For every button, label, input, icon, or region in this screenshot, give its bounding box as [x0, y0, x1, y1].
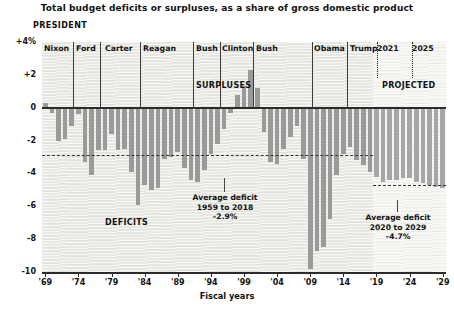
- bar-1975: [83, 108, 88, 162]
- bar-2020: [381, 108, 386, 182]
- x-tick-24: '24: [398, 278, 422, 287]
- bar-2001: [255, 88, 260, 108]
- bar-2003: [268, 108, 273, 162]
- bar-1996: [222, 108, 227, 129]
- chart-root: Total budget deficits or surpluses, as a…: [0, 0, 454, 310]
- president-name-2021-9: 2021: [377, 44, 399, 53]
- president-divider-ford: [73, 42, 74, 109]
- bar-2009: [308, 108, 313, 269]
- bar-2008: [301, 108, 306, 159]
- bar-2024: [407, 108, 412, 179]
- president-divider-carter: [100, 42, 101, 109]
- bar-1971: [56, 108, 61, 141]
- y-tick-2: 0: [2, 103, 36, 112]
- president-divider-clinton: [220, 42, 221, 109]
- bar-2010: [315, 108, 320, 251]
- zero-axis-line: [42, 107, 446, 109]
- x-tick-mark-24: [410, 273, 411, 277]
- bar-1974: [76, 108, 81, 115]
- bar-2021: [387, 108, 392, 180]
- x-tick-29: '29: [431, 278, 454, 287]
- x-tick-mark-69: [45, 273, 46, 277]
- x-tick-94: '94: [199, 278, 223, 287]
- avg1-line3: –2.9%: [182, 212, 268, 222]
- bar-1995: [215, 108, 220, 144]
- x-tick-19: '19: [364, 278, 388, 287]
- bar-2029: [440, 108, 445, 189]
- bar-2018: [368, 108, 373, 172]
- bar-1991: [189, 108, 194, 180]
- bar-1973: [69, 108, 74, 126]
- bar-2012: [328, 108, 333, 220]
- y-tick-5: -6: [2, 201, 36, 210]
- y-tick-0: +4%: [2, 37, 36, 46]
- projected-annotation: PROJECTED: [382, 81, 435, 90]
- bar-2013: [334, 108, 339, 175]
- president-divider-reagan: [140, 42, 141, 109]
- bar-1976: [89, 108, 94, 175]
- bar-1990: [182, 108, 187, 169]
- bar-1986: [156, 108, 161, 189]
- president-divider-trump: [347, 42, 348, 109]
- bar-1998: [235, 95, 240, 108]
- bar-2002: [262, 108, 267, 133]
- surpluses-annotation: SURPLUSES: [196, 81, 251, 90]
- president-name-nixon-0: Nixon: [44, 44, 69, 53]
- president-divider-obama: [312, 42, 313, 109]
- avg-line-2: [373, 185, 446, 186]
- avg2-line1: Average deficit: [355, 213, 441, 223]
- bar-1979: [109, 108, 114, 134]
- bar-2028: [434, 108, 439, 187]
- y-tick-6: -8: [2, 234, 36, 243]
- y-tick-4: -4: [2, 168, 36, 177]
- x-tick-mark-09: [310, 273, 311, 277]
- x-tick-mark-74: [78, 273, 79, 277]
- bar-1993: [202, 108, 207, 170]
- bar-1981: [122, 108, 127, 149]
- y-tick-1: +2: [2, 70, 36, 79]
- x-tick-74: '74: [66, 278, 90, 287]
- bar-2015: [348, 108, 353, 147]
- bar-1980: [116, 108, 121, 151]
- bar-2014: [341, 108, 346, 154]
- x-tick-09: '09: [298, 278, 322, 287]
- x-axis-title: Fiscal years: [0, 291, 454, 301]
- bar-1992: [195, 108, 200, 182]
- president-name-trump-8: Trump: [350, 44, 378, 53]
- avg2-line2: 2020 to 2029: [355, 223, 441, 233]
- bar-2022: [394, 108, 399, 180]
- x-tick-mark-79: [112, 273, 113, 277]
- x-tick-89: '89: [166, 278, 190, 287]
- x-tick-84: '84: [133, 278, 157, 287]
- x-tick-mark-94: [211, 273, 212, 277]
- bar-1978: [103, 108, 108, 151]
- president-name-reagan-3: Reagan: [143, 44, 176, 53]
- bar-2005: [281, 108, 286, 149]
- president-name-bush-6: Bush: [256, 44, 278, 53]
- x-tick-mark-04: [277, 273, 278, 277]
- chart-title: Total budget deficits or surpluses, as a…: [0, 3, 454, 13]
- avg1-annotation: Average deficit 1959 to 2018 –2.9%: [182, 193, 268, 222]
- bar-2017: [361, 108, 366, 166]
- president-axis-label: PRESIDENT: [33, 21, 87, 30]
- x-tick-mark-14: [343, 273, 344, 277]
- president-divider-bush: [193, 42, 194, 109]
- avg2-annotation: Average deficit 2020 to 2029 –4.7%: [355, 213, 441, 242]
- bar-2019: [374, 108, 379, 177]
- x-tick-14: '14: [331, 278, 355, 287]
- avg2-line3: –4.7%: [355, 232, 441, 242]
- x-tick-79: '79: [100, 278, 124, 287]
- bar-1985: [149, 108, 154, 190]
- bar-2011: [321, 108, 326, 248]
- x-tick-mark-29: [443, 273, 444, 277]
- bar-1988: [169, 108, 174, 157]
- avg-line-1: [42, 155, 373, 156]
- y-tick-3: -2: [2, 136, 36, 145]
- x-tick-69: '69: [33, 278, 57, 287]
- bar-2016: [354, 108, 359, 161]
- president-name-obama-7: Obama: [314, 44, 345, 53]
- bar-1977: [96, 108, 101, 151]
- bar-1984: [142, 108, 147, 185]
- president-name-2025-10: 2025: [412, 44, 434, 53]
- bar-1994: [209, 108, 214, 154]
